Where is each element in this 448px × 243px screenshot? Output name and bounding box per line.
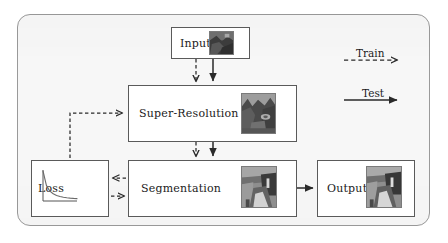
node-segmentation-label: Segmentation bbox=[141, 182, 221, 195]
figure-canvas: Input Super-Resolution Segmentation bbox=[0, 0, 448, 243]
loss-curve-plot bbox=[36, 167, 78, 208]
node-output-label: Output bbox=[327, 182, 367, 195]
legend-train-label: Train bbox=[356, 47, 384, 59]
super-resolution-image-thumbnail bbox=[241, 93, 276, 134]
node-super-resolution-label: Super-Resolution bbox=[139, 107, 239, 120]
node-input-label: Input bbox=[180, 37, 211, 50]
legend-test-label: Test bbox=[362, 87, 384, 99]
loss-curve-line bbox=[43, 171, 77, 199]
segmentation-map-thumbnail bbox=[241, 166, 277, 208]
output-image-thumbnail bbox=[366, 166, 402, 208]
input-image-thumbnail bbox=[209, 31, 234, 55]
